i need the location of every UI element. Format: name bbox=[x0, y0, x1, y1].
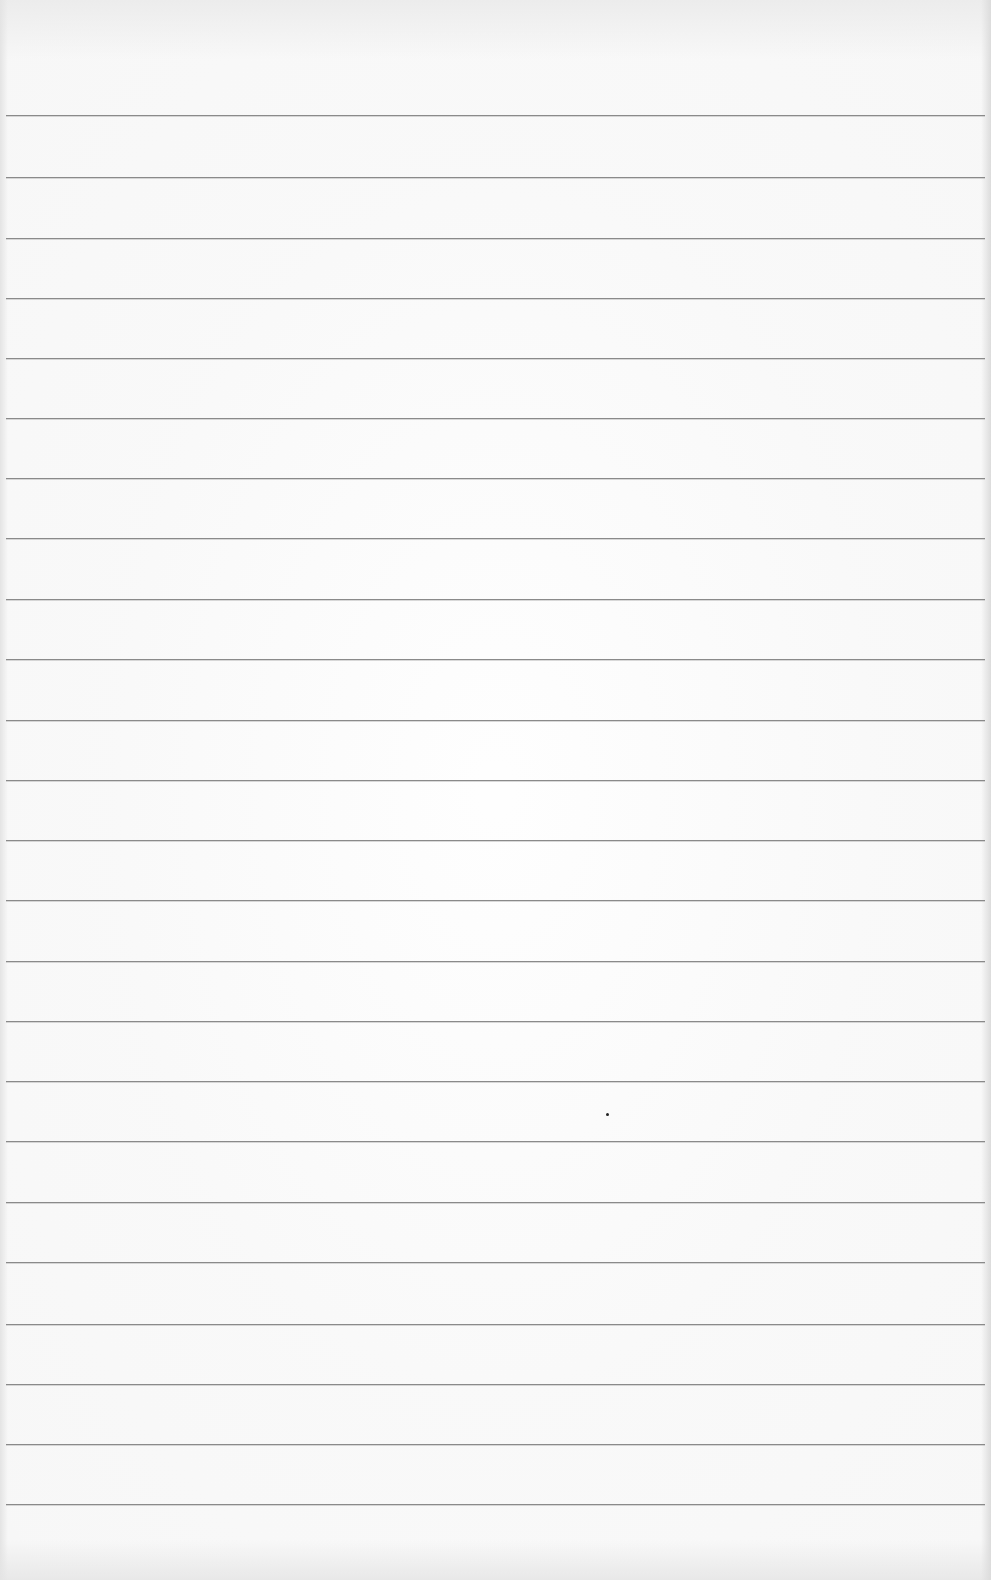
ruled-line bbox=[6, 1202, 985, 1203]
ruled-line bbox=[6, 1081, 985, 1082]
ruled-line bbox=[6, 418, 985, 419]
ruled-line bbox=[6, 1504, 985, 1505]
ruled-line bbox=[6, 177, 985, 178]
ruled-line bbox=[6, 599, 985, 600]
lined-paper-page bbox=[0, 0, 991, 1580]
ruled-line bbox=[6, 478, 985, 479]
ruled-line bbox=[6, 780, 985, 781]
ruled-line bbox=[6, 1324, 985, 1325]
ruled-line bbox=[6, 538, 985, 539]
ruled-line bbox=[6, 115, 985, 116]
ruled-line bbox=[6, 1262, 985, 1263]
ruled-line bbox=[6, 1141, 985, 1142]
ruled-line bbox=[6, 1444, 985, 1445]
ruled-line bbox=[6, 961, 985, 962]
ruled-line bbox=[6, 720, 985, 721]
ruled-line bbox=[6, 358, 985, 359]
ruled-line bbox=[6, 1384, 985, 1385]
ruled-line bbox=[6, 900, 985, 901]
ruled-line bbox=[6, 659, 985, 660]
ruled-line bbox=[6, 238, 985, 239]
ruled-line bbox=[6, 840, 985, 841]
ink-dot bbox=[606, 1113, 609, 1116]
ruled-lines bbox=[0, 0, 991, 1580]
ruled-line bbox=[6, 298, 985, 299]
ruled-line bbox=[6, 1021, 985, 1022]
